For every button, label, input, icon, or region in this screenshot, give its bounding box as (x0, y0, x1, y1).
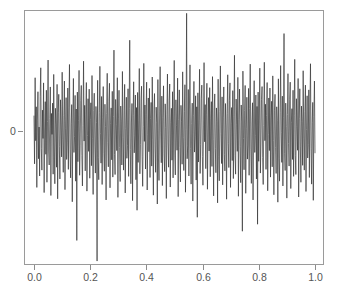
time-series-plot: 0.00.20.40.60.81.0 0 (0, 0, 337, 302)
x-tick-label: 0.8 (252, 271, 267, 283)
x-tick-label: 0.6 (196, 271, 211, 283)
x-tick-label: 0.2 (83, 271, 98, 283)
x-tick-label: 1.0 (308, 271, 323, 283)
y-tick-label: 0 (10, 125, 16, 137)
x-tick-label: 0.4 (139, 271, 154, 283)
figure-canvas: 0.00.20.40.60.81.0 0 (0, 0, 337, 302)
x-tick-label: 0.0 (27, 271, 42, 283)
